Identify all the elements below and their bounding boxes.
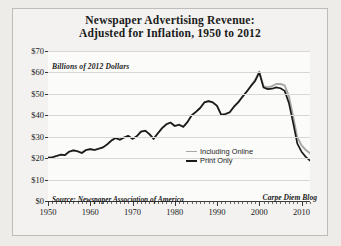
y-axis-tick-mark [45, 72, 48, 73]
y-axis-tick-mark [45, 158, 48, 159]
y-axis-tick-label: $70 [0, 46, 44, 56]
y-axis-tick-label: $10 [0, 175, 44, 185]
x-axis-tick-label: 1970 [124, 207, 141, 217]
x-axis-tick [268, 202, 269, 204]
x-axis-tick-label: 2000 [251, 207, 268, 217]
y-axis-tick-label: $50 [0, 89, 44, 99]
x-axis-tick [230, 202, 231, 204]
x-axis-tick [48, 202, 49, 206]
y-axis-tick-mark [45, 94, 48, 95]
legend-swatch-print-only [186, 160, 197, 162]
x-axis-tick-label: 1950 [40, 207, 57, 217]
x-axis-tick [238, 202, 239, 204]
x-axis-tick [264, 202, 265, 204]
x-axis-tick [196, 202, 197, 204]
x-axis-tick [310, 202, 311, 204]
x-axis-tick [293, 202, 294, 204]
x-axis-tick-label: 1990 [209, 207, 226, 217]
legend-item-print-only: Print Only [186, 156, 253, 165]
gridline [48, 137, 310, 138]
y-axis-tick-label: $20 [0, 153, 44, 163]
x-axis-tick [247, 202, 248, 204]
x-axis-tick [242, 202, 243, 204]
x-axis-tick-label: 1980 [166, 207, 183, 217]
y-axis-tick-label: $60 [0, 67, 44, 77]
chart-title-line-1: Newspaper Advertising Revenue: [12, 14, 328, 27]
x-axis-tick [280, 202, 281, 204]
y-axis-tick-mark [45, 51, 48, 52]
x-axis-tick [255, 202, 256, 204]
gridline [48, 72, 310, 73]
x-axis-tick [209, 202, 210, 204]
chart-legend: Including Online Print Only [186, 147, 253, 165]
x-axis-tick [259, 202, 260, 206]
x-axis-tick [289, 202, 290, 204]
x-axis-tick [225, 202, 226, 204]
chart-title: Newspaper Advertising Revenue: Adjusted … [12, 14, 328, 40]
x-axis-tick-label: 2010 [293, 207, 310, 217]
source-note: Source: Newspaper Association of America [52, 195, 184, 204]
x-axis-tick [251, 202, 252, 204]
data-lines [48, 51, 310, 201]
gridline [48, 158, 310, 159]
legend-swatch-including-online [186, 151, 197, 152]
gridline [48, 94, 310, 95]
y-axis-tick-mark [45, 180, 48, 181]
x-axis-tick [297, 202, 298, 204]
x-axis-tick [221, 202, 222, 204]
x-axis-tick [234, 202, 235, 204]
x-axis-tick [306, 202, 307, 204]
x-axis-tick [276, 202, 277, 204]
x-axis-tick [200, 202, 201, 204]
x-axis-tick [285, 202, 286, 204]
x-axis-tick-label: 1960 [82, 207, 99, 217]
plot-area [48, 51, 310, 201]
x-axis-tick [187, 202, 188, 204]
gridline [48, 115, 310, 116]
y-axis-tick-label: $30 [0, 132, 44, 142]
gridline [48, 51, 310, 52]
y-axis-tick-mark [45, 137, 48, 138]
x-axis-tick [213, 202, 214, 204]
legend-label-print-only: Print Only [200, 156, 232, 165]
x-axis-tick [217, 202, 218, 206]
chart-page: Newspaper Advertising Revenue: Adjusted … [0, 0, 341, 246]
x-axis-tick [204, 202, 205, 204]
credit-note: Carpe Diem Blog [263, 193, 317, 202]
x-axis-tick [192, 202, 193, 204]
y-axis-tick-mark [45, 115, 48, 116]
chart-title-line-2: Adjusted for Inflation, 1950 to 2012 [12, 27, 328, 40]
gridline [48, 180, 310, 181]
legend-label-including-online: Including Online [200, 147, 253, 156]
x-axis-tick [302, 202, 303, 206]
y-axis-tick-label: $40 [0, 110, 44, 120]
y-axis-label: Billions of 2012 Dollars [52, 62, 129, 71]
x-axis-tick [272, 202, 273, 204]
legend-item-including-online: Including Online [186, 147, 253, 156]
y-axis-tick-label: $0 [0, 196, 44, 206]
